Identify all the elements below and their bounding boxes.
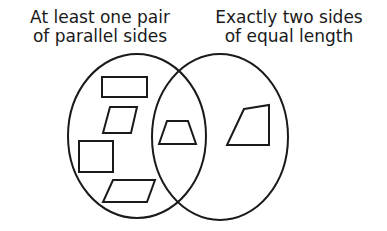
parallelogram-lower-shape [103,180,155,202]
parallelogram-upper-shape [103,107,137,133]
set-ellipse-right [152,54,288,220]
irregular-quadrilateral-shape [227,105,269,145]
venn-diagram [0,0,387,231]
isosceles-trapezoid-shape [159,121,196,144]
shapes-group [79,77,269,202]
square-shape [79,141,113,172]
rectangle-shape [102,77,147,97]
set-ellipse-left [68,54,206,218]
